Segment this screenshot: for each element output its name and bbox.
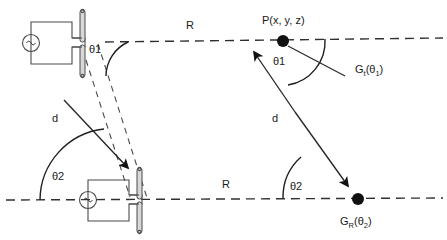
gain-transmit-close: ) xyxy=(380,63,384,75)
theta1-right-label: θ1 xyxy=(273,55,285,67)
field-point-p-marker xyxy=(277,35,289,47)
gain-transmit-g: G xyxy=(355,63,364,75)
theta1-left-label: θ1 xyxy=(89,43,101,55)
distance-right-arrow-down xyxy=(295,112,348,186)
theta2-right-label: θ2 xyxy=(290,180,302,192)
antenna-top-left xyxy=(23,9,86,77)
range-top-label: R xyxy=(186,19,194,31)
svg-text:GR(θ2): GR(θ2) xyxy=(340,215,372,230)
gain-transmit-label: Gt(θ1) xyxy=(355,63,383,78)
diagram-canvas: θ1 R d θ2 P(x, y, z) xyxy=(0,0,447,240)
gain-receive-label: GR(θ2) xyxy=(340,215,372,230)
gain-transmit-open: (θ xyxy=(366,63,376,75)
boresight-bottom-axis xyxy=(6,198,443,200)
antenna-bottom-left xyxy=(80,167,143,233)
range-bottom-label: R xyxy=(222,178,230,190)
gain-receive-open: (θ xyxy=(354,215,364,227)
gain-receive-g: G xyxy=(340,215,349,227)
point-p-label: P(x, y, z) xyxy=(262,14,305,26)
receive-point-marker xyxy=(352,193,364,205)
gain-transmit-leader-line xyxy=(288,46,345,76)
svg-text:Gt(θ1): Gt(θ1) xyxy=(355,63,383,78)
distance-left-arrow xyxy=(64,100,128,168)
theta2-left-arc xyxy=(40,129,104,200)
boresight-top-axis xyxy=(105,38,443,42)
distance-left-label: d xyxy=(52,112,58,124)
gain-receive-close: ) xyxy=(368,215,372,227)
theta1-left-arc xyxy=(106,42,128,76)
antenna-geometry-diagram: θ1 R d θ2 P(x, y, z) xyxy=(0,0,447,240)
distance-right-label: d xyxy=(272,112,278,124)
theta2-left-label: θ2 xyxy=(52,170,64,182)
